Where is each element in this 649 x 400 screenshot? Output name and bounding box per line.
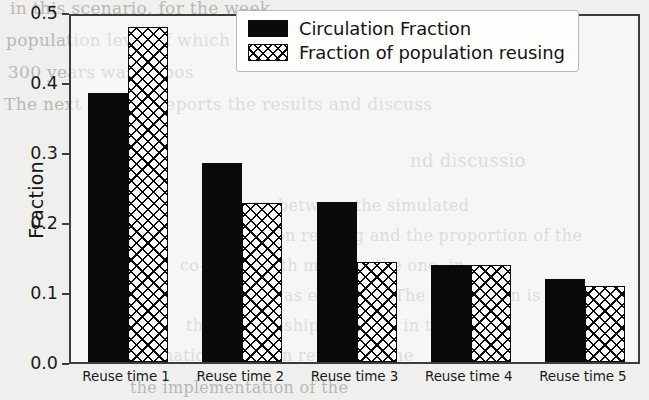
x-tick-label: Reuse time 3: [295, 368, 415, 384]
y-tick-label: 0.1: [2, 285, 58, 303]
y-tick-label: 0.2: [2, 215, 58, 233]
legend-label: Circulation Fraction: [299, 18, 471, 39]
y-tick-mark: [62, 83, 69, 85]
bar-circulation-fraction: [88, 93, 128, 363]
bar-chart-figure: Fraction 0.00.10.20.30.40.5 Reuse time 1…: [0, 0, 649, 400]
y-tick-mark: [62, 363, 69, 365]
legend-swatch-hatch-icon: [248, 44, 288, 61]
bar-population-reusing: [585, 286, 625, 362]
y-tick-label: 0.0: [2, 355, 58, 373]
legend-entry-circulation-fraction: Circulation Fraction: [248, 18, 565, 39]
bar-circulation-fraction: [317, 202, 357, 362]
bar-population-reusing: [128, 27, 168, 362]
x-tick-label: Reuse time 4: [409, 368, 529, 384]
y-tick-label: 0.4: [2, 75, 58, 93]
legend-swatch-solid-icon: [248, 20, 288, 37]
chart-legend: Circulation Fraction Fraction of populat…: [236, 10, 579, 72]
y-tick-label: 0.3: [2, 145, 58, 163]
x-tick-label: Reuse time 5: [523, 368, 643, 384]
y-tick-mark: [62, 153, 69, 155]
y-tick-mark: [62, 223, 69, 225]
x-tick-label: Reuse time 2: [180, 368, 300, 384]
y-tick-label: 0.5: [2, 5, 58, 23]
y-tick-mark: [62, 293, 69, 295]
y-tick-mark: [62, 13, 69, 15]
legend-label: Fraction of population reusing: [299, 42, 565, 63]
x-tick-label: Reuse time 1: [66, 368, 186, 384]
bar-circulation-fraction: [202, 163, 242, 363]
bar-population-reusing: [471, 265, 511, 362]
bar-population-reusing: [242, 203, 282, 362]
bar-circulation-fraction: [431, 265, 471, 362]
legend-entry-fraction-of-population-reusing: Fraction of population reusing: [248, 42, 565, 63]
bar-circulation-fraction: [545, 279, 585, 362]
bar-population-reusing: [357, 262, 397, 362]
